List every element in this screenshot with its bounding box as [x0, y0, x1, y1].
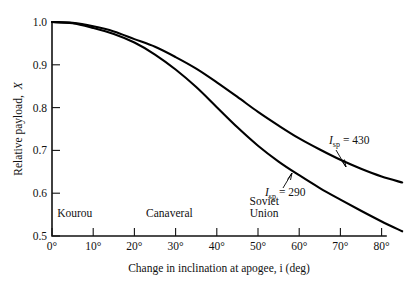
isp290-arrowhead [288, 173, 293, 180]
x-tick-label-7: 70° [332, 240, 349, 252]
y-tick-label-0: 0.5 [33, 230, 48, 242]
y-axis-title-symbol: X [12, 81, 24, 90]
axis-lines [52, 22, 386, 236]
site-label-kourou: Kourou [57, 207, 92, 219]
x-tick-marks [52, 228, 382, 236]
x-tick-label-4: 40° [209, 240, 226, 252]
x-axis-title-main: Change in inclination at apogee, i (deg) [128, 262, 310, 275]
series-line-isp-430 [52, 22, 402, 183]
x-tick-label-5: 50° [250, 240, 267, 252]
svg-text:Isp= 430: Isp= 430 [328, 134, 370, 149]
x-tick-label-2: 20° [126, 240, 143, 252]
y-tick-label-5: 1.0 [33, 16, 48, 28]
isp430-value: = 430 [343, 134, 370, 146]
series-annotation-isp-430: Isp= 430 [328, 134, 370, 167]
series-line-isp-290 [52, 22, 402, 231]
y-tick-label-1: 0.6 [33, 187, 48, 199]
y-axis-title: Relative payload, X [12, 81, 25, 175]
figure-container: 0.5 0.6 0.7 0.8 0.9 1.0 0° 10° 20° 30° 4… [0, 0, 416, 286]
x-tick-label-0: 0° [47, 240, 58, 252]
chart-svg: 0.5 0.6 0.7 0.8 0.9 1.0 0° 10° 20° 30° 4… [0, 0, 416, 286]
site-label-union: Union [250, 207, 279, 219]
x-tick-label-1: 10° [85, 240, 102, 252]
site-label-canaveral: Canaveral [146, 207, 193, 219]
x-axis-title: Change in inclination at apogee, i (deg) [128, 262, 310, 275]
site-label-soviet: Soviet [250, 195, 280, 207]
y-tick-marks [52, 22, 60, 236]
x-tick-label-3: 30° [168, 240, 185, 252]
isp430-subscript: sp [333, 140, 340, 149]
y-tick-label-2: 0.7 [33, 144, 48, 156]
x-tick-label-8: 80° [374, 240, 391, 252]
y-axis-title-main: Relative payload, [12, 92, 25, 175]
y-tick-label-3: 0.8 [33, 102, 48, 114]
x-tick-label-6: 60° [291, 240, 308, 252]
y-tick-label-4: 0.9 [33, 59, 48, 71]
